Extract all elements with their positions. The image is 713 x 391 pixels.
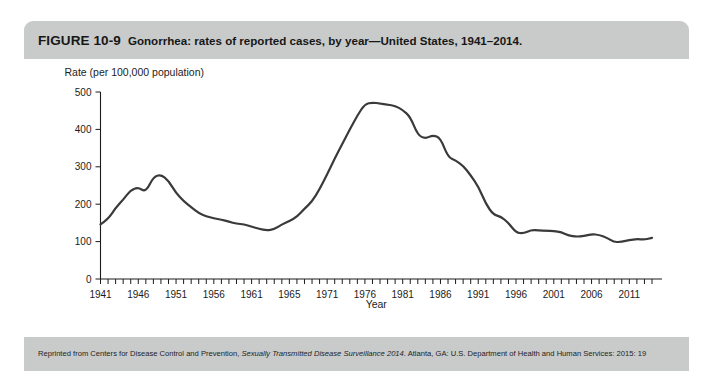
figure-credit: Reprinted from Centers for Disease Contr… (24, 337, 689, 371)
y-tick-label: 400 (75, 124, 92, 135)
y-axis-title-group: Rate (per 100,000 population) (65, 66, 205, 78)
figure-header: FIGURE 10-9 Gonorrhea: rates of reported… (24, 21, 689, 59)
y-axis-tick-labels: 0100200300400500 (75, 87, 92, 285)
y-tick-label: 500 (75, 87, 92, 98)
data-series-line (101, 103, 653, 242)
x-tick-label: 1956 (203, 289, 226, 300)
x-tick-label: 1971 (316, 289, 339, 300)
x-axis-title: Year (366, 298, 388, 310)
x-tick-label: 1946 (127, 289, 150, 300)
figure-caption: Gonorrhea: rates of reported cases, by y… (128, 34, 522, 47)
y-tick-label: 0 (86, 274, 92, 285)
x-tick-label: 1996 (505, 289, 528, 300)
x-tick-label: 1986 (429, 289, 452, 300)
x-tick-label: 2006 (580, 289, 603, 300)
credit-text: Reprinted from Centers for Disease Contr… (38, 349, 646, 358)
y-tick-label: 300 (75, 161, 92, 172)
y-tick-label: 100 (75, 236, 92, 247)
x-tick-label: 2011 (619, 289, 641, 300)
x-tick-label: 1941 (89, 289, 112, 300)
figure-number-label: FIGURE 10-9 (38, 33, 121, 48)
y-tick-label: 200 (75, 199, 92, 210)
chart-svg: Rate (per 100,000 population) 0100200300… (24, 59, 689, 337)
figure-card: FIGURE 10-9 Gonorrhea: rates of reported… (24, 21, 689, 371)
x-tick-label: 1991 (467, 289, 490, 300)
credit-source-title: Sexually Transmitted Disease Surveillanc… (241, 349, 403, 358)
x-axis-tick-marks (101, 279, 653, 284)
figure-body: Rate (per 100,000 population) 0100200300… (24, 59, 689, 337)
x-tick-label: 1961 (240, 289, 263, 300)
y-axis-tick-marks (96, 92, 101, 279)
x-tick-label: 1981 (392, 289, 415, 300)
x-tick-label: 2001 (543, 289, 566, 300)
x-tick-label: 1965 (278, 289, 301, 300)
y-axis-title: Rate (per 100,000 population) (65, 66, 205, 78)
credit-prefix: Reprinted from Centers for Disease Contr… (38, 349, 241, 358)
x-tick-label: 1951 (165, 289, 188, 300)
credit-suffix: . Atlanta, GA: U.S. Department of Health… (404, 349, 646, 358)
line-chart: Rate (per 100,000 population) 0100200300… (24, 59, 689, 337)
